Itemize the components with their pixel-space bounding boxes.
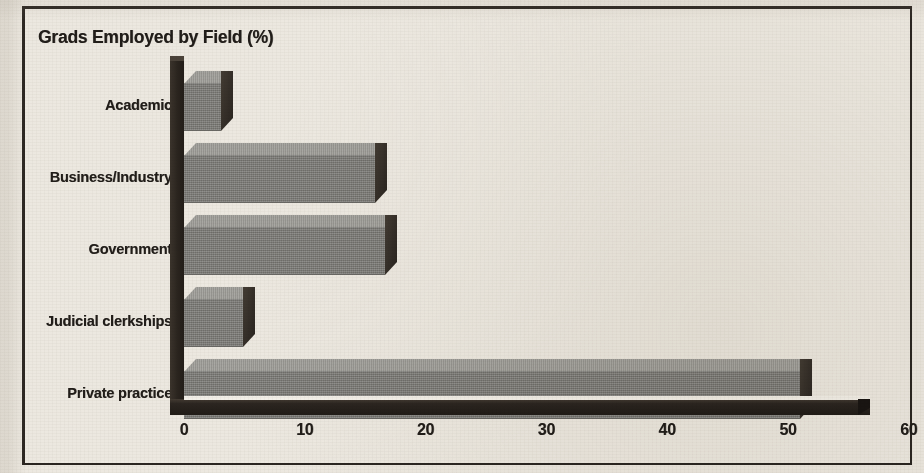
category-label-3: Judicial clerkships — [46, 313, 172, 329]
x-tick-0: 0 — [180, 421, 189, 439]
category-label-2: Government — [89, 241, 172, 257]
plot-area: AcademicBusiness/IndustryGovernmentJudic… — [0, 0, 924, 473]
x-tick-10: 10 — [296, 421, 313, 439]
chart-title: Grads Employed by Field (%) — [38, 27, 273, 48]
x-tick-20: 20 — [417, 421, 434, 439]
bar-side-face — [385, 215, 397, 275]
chart-figure: Grads Employed by Field (%) AcademicBusi… — [0, 0, 924, 473]
bar-front-face — [184, 299, 243, 347]
bar-front-face — [184, 83, 221, 131]
x-tick-50: 50 — [779, 421, 796, 439]
x-tick-30: 30 — [538, 421, 555, 439]
y-axis-wall-cap — [170, 56, 184, 61]
bar-side-face — [243, 287, 255, 347]
category-label-1: Business/Industry — [50, 169, 172, 185]
category-label-0: Academic — [105, 97, 172, 113]
x-tick-40: 40 — [659, 421, 676, 439]
x-axis-wall — [170, 399, 870, 415]
y-axis-wall — [170, 60, 184, 415]
category-label-4: Private practice — [67, 385, 172, 401]
bar-side-face — [221, 71, 233, 131]
bar-front-face — [184, 155, 375, 203]
x-tick-60: 60 — [900, 421, 917, 439]
bar-front-face — [184, 227, 385, 275]
bar-academic — [184, 71, 233, 118]
bar-business-industry — [184, 143, 387, 190]
x-axis-bevel — [184, 396, 870, 400]
bar-side-face — [375, 143, 387, 203]
bar-government — [184, 215, 397, 262]
bar-judicial-clerkships — [184, 287, 255, 334]
